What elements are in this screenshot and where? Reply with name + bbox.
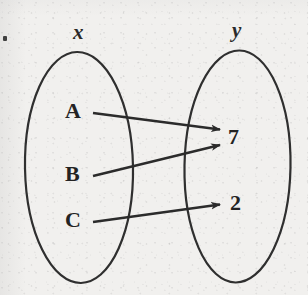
mapping-arrow-c-to-2 [93,205,220,223]
mapping-diagram-svg [0,0,308,295]
mapping-arrow-b-to-7 [93,145,220,176]
domain-element-c: C [65,209,81,231]
codomain-element-7: 7 [228,126,239,148]
domain-set-label: x [73,22,84,43]
codomain-set-ellipse [182,50,292,284]
codomain-set-label: y [232,20,241,41]
domain-element-b: B [65,163,80,185]
figure-canvas: x y A B C 7 2 [0,0,308,295]
mapping-arrow-a-to-7 [93,113,220,130]
domain-element-a: A [65,100,81,122]
codomain-element-2: 2 [230,192,241,214]
margin-ink-dot [3,36,7,41]
